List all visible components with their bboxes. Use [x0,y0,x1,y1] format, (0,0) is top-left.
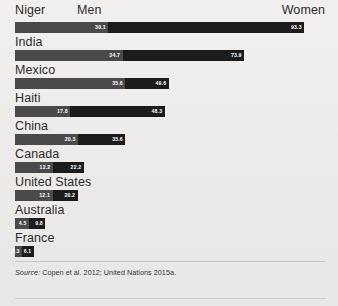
header-country-label: Niger [15,3,45,17]
bar-row: Australia9.84.5 [15,203,325,229]
bar-track: 48.317.8 [15,106,325,117]
bar-value-men: 34.7 [109,50,120,61]
bar-segment-men: 35.6 [15,78,125,89]
bar-value-women: 73.9 [231,50,242,61]
bar-row-label: Australia [15,203,325,218]
legend-women-label: Women [282,3,325,17]
bar-track: 93.330.1 [15,22,325,33]
bar-row: Canada22.212.2 [15,147,325,173]
bar-value-men: 4.5 [19,218,27,229]
bar-value-women: 49.6 [156,78,167,89]
bar-segment-men: 12.2 [15,162,53,173]
bar-segment-men: 12.1 [15,190,53,201]
bar-rows: Niger93.330.1India73.934.7Mexico49.635.6… [15,22,325,257]
bar-segment-men: 20.3 [15,134,78,145]
bar-segment-men: 2.3 [15,246,22,257]
bar-value-men: 30.1 [95,22,106,33]
bar-row-label: Mexico [15,63,325,78]
bar-value-women: 22.2 [71,162,82,173]
bar-track: 35.620.3 [15,134,325,145]
bar-row: Mexico49.635.6 [15,63,325,89]
bar-chart: Niger Men Women Niger93.330.1India73.934… [0,0,338,259]
bar-row: United States20.212.1 [15,175,325,201]
bar-row: India73.934.7 [15,35,325,61]
footer-divider [15,298,325,299]
bar-value-men: 17.8 [57,106,68,117]
bar-track: 9.84.5 [15,218,325,229]
legend-men-label: Men [77,3,102,17]
bar-value-women: 48.3 [152,106,163,117]
bar-value-women: 9.8 [35,218,43,229]
bar-segment-men: 34.7 [15,50,123,61]
bar-segment-men: 17.8 [15,106,70,117]
page-background: Niger Men Women Niger93.330.1India73.934… [0,0,338,306]
source-text: Source: Copen et al. 2012; United Nation… [15,268,325,278]
bar-segment-men: 4.5 [15,218,29,229]
bar-row-label: United States [15,175,325,190]
bar-track: 22.212.2 [15,162,325,173]
source-note: Source: Copen et al. 2012; United Nation… [15,268,325,278]
source-citation: Copen et al. 2012; United Nations 2015a. [40,268,176,277]
bar-row-label: China [15,119,325,134]
bar-row: China35.620.3 [15,119,325,145]
bar-row-label: Canada [15,147,325,162]
bar-row-label: Haiti [15,91,325,106]
source-lead: Source: [15,268,40,277]
bar-value-men: 20.3 [65,134,76,145]
bar-row: Haiti48.317.8 [15,91,325,117]
bar-value-men: 12.1 [39,190,50,201]
bar-segment-men: 30.1 [15,22,108,33]
bar-row: France6.12.3 [15,231,325,257]
bar-track: 6.12.3 [15,246,325,257]
bar-row-label: France [15,231,325,246]
bar-row: Niger93.330.1 [15,22,325,33]
bar-value-women: 93.3 [291,22,302,33]
bar-value-women: 20.2 [64,190,75,201]
bar-value-women: 35.6 [112,134,123,145]
bar-value-men: 12.2 [40,162,51,173]
bar-track: 73.934.7 [15,50,325,61]
bar-track: 49.635.6 [15,78,325,89]
source-divider-top [15,261,325,262]
bar-row-label: India [15,35,325,50]
chart-header: Niger Men Women [15,2,325,22]
bar-value-women: 6.1 [24,246,32,257]
bar-value-men: 2.3 [12,246,20,257]
bar-value-men: 35.6 [112,78,123,89]
bar-track: 20.212.1 [15,190,325,201]
